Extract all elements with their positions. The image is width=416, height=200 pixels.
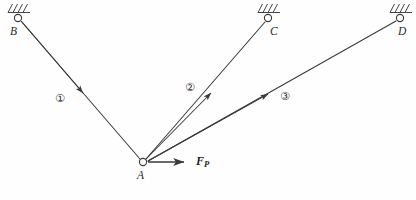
joint-a-circle [139,158,146,165]
support-d-hatch-1 [390,4,395,13]
node-label-a: A [137,170,144,182]
node-label-d: D [398,26,406,38]
member-label-3: ③ [280,91,290,102]
member-2-arrowhead [146,93,211,159]
support-c-pin-circle [264,14,271,21]
support-d [390,4,412,22]
support-b-hatch-3 [18,4,23,13]
support-b-hatch-2 [13,4,18,13]
support-d-hatch-4 [405,4,410,13]
support-b-hatch-4 [23,4,28,13]
support-d-hatch-3 [400,4,405,13]
support-d-pin-circle [396,14,403,21]
node-label-b: B [10,26,17,38]
member-2-group [146,22,265,159]
force-label-fp: FP [196,155,209,168]
figure-canvas: B C D A ① ② ③ FP [0,0,416,200]
support-c-hatch-2 [263,4,268,13]
member-label-2: ② [185,82,195,93]
support-b-hatch-1 [8,4,13,13]
force-symbol: F [196,154,204,168]
member-1-arrowhead [22,22,84,94]
member-label-1: ① [55,93,65,104]
force-subscript: P [204,159,209,169]
support-b-pin-circle [14,14,21,21]
support-c-hatch-1 [258,4,263,13]
support-c [258,4,280,22]
member-2-line [146,22,265,159]
member-1-group [22,22,141,160]
node-label-c: C [270,26,278,38]
support-c-hatch-3 [268,4,273,13]
support-c-hatch-4 [273,4,278,13]
support-b [8,4,30,22]
support-d-hatch-2 [395,4,400,13]
member-3-arrowhead [148,94,268,161]
